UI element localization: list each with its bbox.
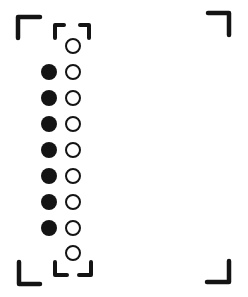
open-circle bbox=[66, 65, 80, 79]
open-circle bbox=[66, 195, 80, 209]
inner-bottom-left-bracket bbox=[55, 262, 67, 275]
filled-dot bbox=[41, 220, 57, 236]
inner-top-left-bracket bbox=[55, 25, 64, 38]
top-right-bracket bbox=[208, 13, 229, 35]
filled-dot bbox=[41, 142, 57, 158]
open-circle bbox=[66, 246, 80, 260]
filled-dot bbox=[41, 194, 57, 210]
open-circle bbox=[66, 143, 80, 157]
open-circle-column bbox=[66, 39, 80, 260]
top-left-bracket bbox=[18, 17, 40, 38]
bottom-right-bracket bbox=[207, 261, 229, 282]
filled-dot bbox=[41, 90, 57, 106]
filled-dot bbox=[41, 116, 57, 132]
open-circle bbox=[66, 39, 80, 53]
inner-brackets bbox=[55, 25, 91, 275]
filled-dot bbox=[41, 64, 57, 80]
open-circle bbox=[66, 221, 80, 235]
open-circle bbox=[66, 169, 80, 183]
bottom-left-bracket bbox=[19, 262, 40, 284]
filled-dot bbox=[41, 168, 57, 184]
inner-bottom-right-bracket bbox=[79, 262, 91, 275]
open-circle bbox=[66, 117, 80, 131]
inner-top-right-bracket bbox=[80, 25, 89, 38]
viewfinder-svg bbox=[0, 0, 248, 297]
viewfinder-figure bbox=[0, 0, 248, 297]
filled-dot-column bbox=[41, 64, 57, 236]
open-circle bbox=[66, 91, 80, 105]
